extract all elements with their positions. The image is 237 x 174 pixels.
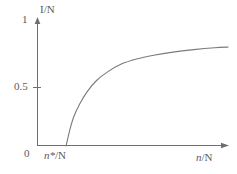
y-axis-title: I/N [40, 4, 55, 15]
origin-label-0: 0 [24, 148, 30, 159]
data-curve-line [66, 47, 228, 146]
x-axis-arrowhead [221, 143, 229, 149]
x-threshold-label: n*/N [44, 150, 66, 161]
y-tick-label-1: 1 [22, 14, 28, 25]
x-axis-title-suffix: /N [202, 151, 213, 163]
chart-figure: 1 0.5 0 I/N n/N n*/N [0, 0, 237, 174]
x-threshold-suffix: /N [55, 149, 66, 161]
y-tick-label-0.5: 0.5 [14, 81, 28, 92]
x-axis-title: n/N [196, 152, 213, 163]
x-threshold-variable: n* [44, 149, 55, 161]
plot-area [0, 0, 237, 174]
y-axis-arrowhead [35, 17, 41, 24]
